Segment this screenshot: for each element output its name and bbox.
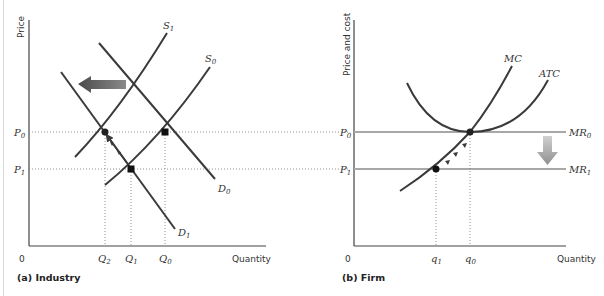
label-q0: Q0 (159, 253, 172, 266)
caption-industry: (a) Industry (17, 272, 80, 283)
label-p1-a: P1 (13, 164, 25, 177)
y-axis-label: Price (16, 16, 26, 38)
label-q0-firm: q0 (465, 253, 476, 266)
adjustment-arrows-d1 (108, 137, 127, 163)
chart-canvas: Price S1 S0 D0 D1 P0 P1 0 Q2 Q1 Q0 Quant… (0, 0, 604, 296)
label-mr0: MR0 (568, 127, 592, 140)
panel-firm: Price and cost MC ATC MR0 MR1 P0 P1 0 q1… (339, 12, 597, 266)
label-d1: D1 (177, 227, 191, 240)
x-axis-label-a: Quantity (232, 254, 272, 264)
origin-b: 0 (345, 254, 351, 264)
label-mr1: MR1 (568, 164, 591, 177)
firm-equilibrium-p1 (433, 166, 440, 173)
demand-curve-d0 (99, 43, 215, 179)
origin-a: 0 (19, 254, 25, 264)
label-d0: D0 (217, 183, 231, 196)
mr-shift-down-arrow-icon (537, 136, 558, 165)
label-p0-b: P0 (339, 127, 352, 140)
equilibrium-point-initial (162, 129, 169, 136)
panel-industry: Price S1 S0 D0 D1 P0 P1 0 Q2 Q1 Q0 Quant… (13, 16, 350, 266)
equilibrium-point-long-run (102, 129, 109, 136)
atc-curve (407, 80, 548, 132)
label-q2: Q2 (98, 253, 111, 266)
x-axis-label-b: Quantity (557, 254, 597, 264)
label-q1-firm: q1 (431, 253, 442, 266)
firm-equilibrium-p0 (467, 129, 474, 136)
supply-shift-arrow-icon (78, 76, 126, 93)
label-q1: Q1 (125, 253, 138, 266)
label-mc: MC (503, 53, 522, 64)
label-s1: S1 (163, 20, 174, 33)
equilibrium-point-short-run (128, 166, 135, 173)
caption-firm: (b) Firm (342, 272, 385, 283)
label-s0: S0 (205, 53, 217, 66)
label-p1-b: P1 (339, 164, 351, 177)
label-p0-a: P0 (13, 127, 26, 140)
label-atc: ATC (538, 68, 560, 79)
y-axis-label-b: Price and cost (342, 12, 352, 76)
